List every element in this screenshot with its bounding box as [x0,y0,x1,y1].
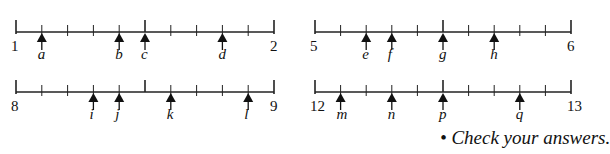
marker-label-k: k [167,106,174,123]
arrow-up-icon [361,33,371,42]
arrow-up-icon [140,33,150,42]
marker-label-p: p [439,106,447,123]
number-line [16,80,274,110]
marker-label-j: j [115,106,119,123]
arrow-up-icon [114,33,124,42]
marker-label-e: e [362,46,369,63]
marker-label-h: h [490,46,498,63]
marker-label-q: q [516,106,524,123]
marker-label-i: i [89,106,93,123]
end-value: 2 [270,38,278,55]
arrow-up-icon [114,93,124,102]
end-value: 6 [567,38,575,55]
marker-label-b: b [115,46,123,63]
marker-label-a: a [38,46,46,63]
start-value: 5 [310,38,318,55]
marker-label-f: f [388,46,392,63]
marker-label-d: d [218,46,226,63]
arrow-up-icon [438,93,448,102]
arrow-up-icon [387,93,397,102]
arrow-up-icon [515,93,525,102]
arrow-up-icon [489,33,499,42]
arrow-up-icon [217,33,227,42]
start-value: 8 [11,98,19,115]
end-value: 9 [270,98,278,115]
arrow-up-icon [387,33,397,42]
arrow-up-icon [88,93,98,102]
end-value: 13 [567,98,582,115]
arrow-up-icon [438,33,448,42]
marker-label-c: c [141,46,148,63]
arrow-up-icon [166,93,176,102]
marker-label-l: l [244,106,248,123]
arrow-up-icon [336,93,346,102]
arrow-up-icon [243,93,253,102]
marker-label-n: n [388,106,396,123]
check-answers-note: • Check your answers. [440,127,610,149]
arrow-up-icon [37,33,47,42]
marker-label-m: m [337,106,348,123]
marker-label-g: g [439,46,447,63]
start-value: 1 [11,38,19,55]
start-value: 12 [310,98,325,115]
